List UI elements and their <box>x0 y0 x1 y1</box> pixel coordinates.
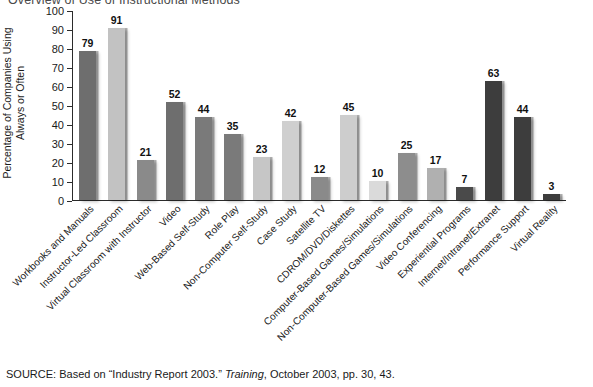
y-tick-50 <box>67 106 72 107</box>
bar-value-label: 35 <box>227 120 239 132</box>
bar-value-label: 7 <box>462 173 468 185</box>
bar-value-label: 21 <box>140 146 152 158</box>
y-tick-30 <box>67 144 72 145</box>
bar-slot: 45 <box>334 11 363 200</box>
bar-value-label: 12 <box>314 163 326 175</box>
y-tick-label-40: 40 <box>52 119 64 131</box>
bar[interactable]: 35 <box>224 134 242 200</box>
bar[interactable]: 44 <box>195 117 213 200</box>
source-prefix: SOURCE: Based on “Industry Report 2003.” <box>6 368 225 380</box>
y-tick-0 <box>67 201 72 202</box>
bar-slot: 25 <box>392 11 421 200</box>
x-axis-label: Non-Computer-Based Games/Simulations <box>274 203 414 343</box>
bar-value-label: 79 <box>82 37 94 49</box>
bar[interactable]: 17 <box>427 168 445 200</box>
y-tick-80 <box>67 49 72 50</box>
bar[interactable]: 7 <box>456 187 474 200</box>
x-axis-category-labels: Workbooks and ManualsInstructor-Led Clas… <box>72 203 566 343</box>
y-tick-label-50: 50 <box>52 100 64 112</box>
y-tick-label-60: 60 <box>52 81 64 93</box>
bar-series: 79912152443523421245102517763443 <box>73 11 566 200</box>
y-tick-label-70: 70 <box>52 62 64 74</box>
bar-slot: 52 <box>160 11 189 200</box>
bar[interactable]: 44 <box>514 117 532 200</box>
bar[interactable]: 12 <box>311 177 329 200</box>
bar-slot: 63 <box>479 11 508 200</box>
bar-slot: 7 <box>450 11 479 200</box>
bar[interactable]: 52 <box>166 102 184 200</box>
y-tick-label-20: 20 <box>52 157 64 169</box>
x-axis-label: Virtual Classroom with Instructor <box>44 203 153 312</box>
bar[interactable]: 79 <box>79 51 97 200</box>
bar[interactable]: 10 <box>369 181 387 200</box>
y-tick-label-90: 90 <box>52 24 64 36</box>
bar-value-label: 63 <box>488 67 500 79</box>
bar-value-label: 44 <box>198 103 210 115</box>
bar-slot: 44 <box>508 11 537 200</box>
y-axis-title: Percentage of Companies Using Always or … <box>1 3 27 203</box>
bar[interactable]: 91 <box>108 28 126 200</box>
y-tick-20 <box>67 163 72 164</box>
bar[interactable]: 3 <box>543 194 561 200</box>
bar[interactable]: 63 <box>485 81 503 200</box>
bar-slot: 12 <box>305 11 334 200</box>
y-tick-label-0: 0 <box>58 195 64 207</box>
chart-title: Overview of Use of Instructional Methods <box>8 0 240 7</box>
y-tick-label-30: 30 <box>52 138 64 150</box>
bar-slot: 44 <box>189 11 218 200</box>
bar-slot: 91 <box>102 11 131 200</box>
bar-value-label: 3 <box>549 180 555 192</box>
x-axis-line <box>72 200 566 201</box>
bar[interactable]: 45 <box>340 115 358 200</box>
bar-value-label: 10 <box>372 167 384 179</box>
plot-area: 1009080706050403020100 79912152443523421… <box>72 11 566 201</box>
bar-value-label: 42 <box>285 107 297 119</box>
bar-slot: 17 <box>421 11 450 200</box>
bar-slot: 3 <box>537 11 566 200</box>
source-suffix: , October 2003, pp. 30, 43. <box>264 368 395 380</box>
bar[interactable]: 23 <box>253 157 271 200</box>
bar-value-label: 23 <box>256 143 268 155</box>
bar-slot: 10 <box>363 11 392 200</box>
y-tick-label-100: 100 <box>46 5 64 17</box>
bar-value-label: 52 <box>169 88 181 100</box>
bar[interactable]: 42 <box>282 121 300 200</box>
bar-slot: 21 <box>131 11 160 200</box>
source-note: SOURCE: Based on “Industry Report 2003.”… <box>6 368 395 380</box>
y-tick-label-10: 10 <box>52 176 64 188</box>
bar-slot: 23 <box>247 11 276 200</box>
bar[interactable]: 25 <box>398 153 416 200</box>
bar-value-label: 45 <box>343 101 355 113</box>
y-tick-60 <box>67 87 72 88</box>
bar-slot: 79 <box>73 11 102 200</box>
bar-value-label: 44 <box>517 103 529 115</box>
y-tick-90 <box>67 30 72 31</box>
y-tick-40 <box>67 125 72 126</box>
x-axis-label: Video <box>157 203 183 229</box>
bar[interactable]: 21 <box>137 160 155 200</box>
y-tick-10 <box>67 182 72 183</box>
y-tick-100 <box>67 11 72 12</box>
y-tick-70 <box>67 68 72 69</box>
bar-value-label: 91 <box>111 14 123 26</box>
bar-value-label: 17 <box>430 154 442 166</box>
y-tick-label-80: 80 <box>52 43 64 55</box>
bar-slot: 35 <box>218 11 247 200</box>
bar-slot: 42 <box>276 11 305 200</box>
bar-value-label: 25 <box>401 139 413 151</box>
source-publication: Training <box>225 368 264 380</box>
